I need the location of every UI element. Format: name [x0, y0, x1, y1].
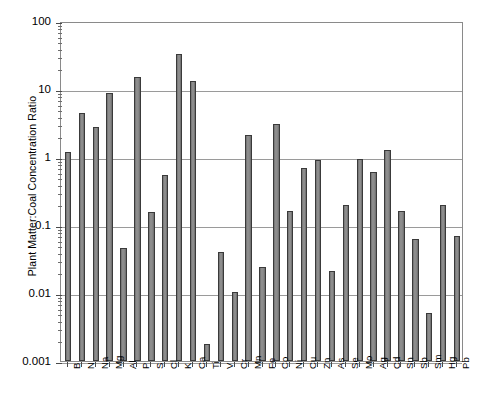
bar-as [329, 271, 335, 361]
bar-ca [190, 81, 196, 361]
y-axis-minor-tick [58, 194, 62, 195]
chart-figure: Plant Matter:Coal Concentration Ratio 10… [0, 0, 482, 411]
y-axis-minor-tick [58, 26, 62, 27]
x-axis-tick [192, 362, 193, 367]
y-axis-minor-tick [58, 315, 62, 316]
x-axis-tick [317, 362, 318, 367]
y-axis-minor-tick [58, 179, 62, 180]
x-axis-tick [178, 362, 179, 367]
x-axis-tick [331, 362, 332, 367]
y-axis-minor-tick [58, 298, 62, 299]
x-axis-tick [206, 362, 207, 367]
bar-cr [232, 292, 238, 361]
y-axis-minor-tick [58, 242, 62, 243]
y-axis-minor-tick [58, 262, 62, 263]
y-axis-minor-tick [58, 138, 62, 139]
bar-cl [162, 175, 168, 361]
bar-na [93, 127, 99, 361]
bar-b [65, 152, 71, 361]
y-axis-minor-tick [58, 106, 62, 107]
x-axis-tick [220, 362, 221, 367]
y-gridline [61, 91, 462, 92]
y-axis-tick-label: 100 [0, 15, 51, 27]
y-axis-tick [56, 91, 62, 92]
bar-sb [412, 239, 418, 361]
bar-ag [370, 172, 376, 361]
y-gridline [61, 159, 462, 160]
y-axis-minor-tick [58, 33, 62, 34]
x-axis-tick [303, 362, 304, 367]
x-axis-tick [109, 362, 110, 367]
x-axis-tick [456, 362, 457, 367]
bar-mo [357, 159, 363, 361]
y-axis-tick-label: 1 [0, 151, 51, 163]
y-axis-tick [56, 227, 62, 228]
y-axis-tick [56, 159, 62, 160]
y-axis-minor-tick [58, 162, 62, 163]
y-axis-tick-label: 0.1 [0, 219, 51, 231]
bar-cu [301, 168, 307, 361]
y-axis-minor-tick [58, 38, 62, 39]
x-axis-tick [81, 362, 82, 367]
y-axis-minor-tick [58, 94, 62, 95]
x-axis-tick [345, 362, 346, 367]
y-axis-minor-tick [58, 305, 62, 306]
x-axis-tick [248, 362, 249, 367]
bar-cd [384, 150, 390, 361]
x-axis-tick [136, 362, 137, 367]
x-axis-tick [234, 362, 235, 367]
y-axis-tick [56, 363, 62, 364]
x-axis-tick [289, 362, 290, 367]
y-axis-tick-label: 10 [0, 83, 51, 95]
y-axis-minor-tick [58, 206, 62, 207]
x-axis-tick [275, 362, 276, 367]
x-axis-tick [400, 362, 401, 367]
y-axis-minor-tick [58, 330, 62, 331]
bar-mn [245, 135, 251, 361]
bar-hg [440, 205, 446, 361]
y-axis-minor-tick [58, 247, 62, 248]
y-axis-minor-tick [58, 43, 62, 44]
y-axis-minor-tick [58, 274, 62, 275]
y-axis-minor-tick [58, 254, 62, 255]
y-axis-minor-tick [58, 230, 62, 231]
bar-sn [398, 211, 404, 361]
x-axis-tick [428, 362, 429, 367]
x-axis-tick [150, 362, 151, 367]
y-axis-minor-tick [58, 58, 62, 59]
y-axis-minor-tick [58, 174, 62, 175]
plot-area [60, 22, 463, 362]
x-axis-tick [95, 362, 96, 367]
y-axis-minor-tick [58, 29, 62, 30]
bar-mg [106, 93, 112, 361]
y-axis-minor-tick [58, 126, 62, 127]
bar-se [343, 205, 349, 361]
x-axis-tick-label: Pb [460, 357, 471, 369]
bar-ni [287, 211, 293, 361]
y-axis-minor-tick [58, 118, 62, 119]
x-axis-tick [414, 362, 415, 367]
x-axis-tick [373, 362, 374, 367]
y-axis-minor-tick [58, 101, 62, 102]
y-axis-minor-tick [58, 186, 62, 187]
x-axis-tick [262, 362, 263, 367]
y-axis-tick [56, 23, 62, 24]
y-axis-tick-label: 0.01 [0, 287, 51, 299]
y-axis-minor-tick [58, 165, 62, 166]
x-axis-tick [123, 362, 124, 367]
bar-s [148, 212, 154, 361]
bar-pb [454, 236, 460, 361]
y-axis-minor-tick [58, 169, 62, 170]
y-axis-minor-tick [58, 233, 62, 234]
x-axis-tick [359, 362, 360, 367]
y-axis-minor-tick [58, 342, 62, 343]
bar-al [120, 248, 126, 361]
bar-v [218, 252, 224, 361]
y-axis-minor-tick [58, 322, 62, 323]
y-axis-minor-tick [58, 50, 62, 51]
y-axis-minor-tick [58, 301, 62, 302]
x-axis-tick [387, 362, 388, 367]
bar-n [79, 113, 85, 361]
y-axis-minor-tick [58, 310, 62, 311]
bar-k [176, 54, 182, 361]
